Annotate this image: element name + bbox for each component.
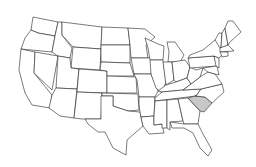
- state-wy: [71, 47, 101, 70]
- state-fl: [170, 122, 212, 156]
- state-ms: [154, 100, 167, 128]
- state-nm: [74, 92, 102, 119]
- state-me: [225, 21, 241, 45]
- state-sd: [101, 45, 130, 63]
- state-az: [49, 88, 77, 118]
- state-ar: [139, 97, 155, 117]
- state-borders: [19, 17, 241, 156]
- state-co: [77, 69, 107, 93]
- state-mi: [167, 42, 184, 62]
- us-map: [0, 0, 256, 167]
- state-nd: [101, 27, 130, 45]
- state-ct: [220, 52, 228, 57]
- state-ks: [107, 76, 137, 93]
